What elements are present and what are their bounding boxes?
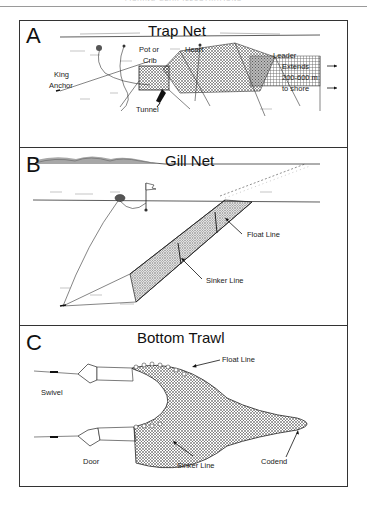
label-leader: Leader — [273, 51, 296, 60]
panel-trap-net: A Trap Net King Anchor Pot or Crib Heart… — [20, 21, 347, 148]
label-float-line: Float Line — [247, 230, 280, 239]
gill-net-illustration — [20, 148, 347, 326]
label-swivel: Swivel — [41, 388, 63, 397]
label-door: Door — [83, 457, 99, 466]
panel-letter-c: C — [26, 330, 42, 356]
page-header: FISHING GEAR ILLUSTRATIONS — [0, 0, 367, 7]
label-crib: Crib — [143, 56, 157, 65]
label-tunnel: Tunnel — [136, 105, 159, 114]
label-sinker-line: Sinker Line — [206, 276, 244, 285]
label-heart: Heart — [185, 45, 203, 54]
label-to-shore: to shore — [282, 84, 309, 93]
figure-frame: A Trap Net King Anchor Pot or Crib Heart… — [19, 20, 348, 487]
label-anchor: Anchor — [49, 81, 73, 90]
label-float-line: Float Line — [222, 355, 255, 364]
label-sinker-line: Sinker Line — [177, 461, 215, 470]
label-pot-or: Pot or — [139, 45, 159, 54]
panel-title-trap-net: Trap Net — [148, 22, 206, 39]
panel-title-gill-net: Gill Net — [165, 152, 214, 169]
header-text: FISHING GEAR ILLUSTRATIONS — [0, 0, 367, 2]
panel-title-bottom-trawl: Bottom Trawl — [137, 329, 225, 346]
panel-letter-b: B — [26, 152, 41, 178]
label-extends: Extends — [282, 62, 309, 71]
panel-bottom-trawl: C Bottom Trawl Swivel Float Line Door Si… — [20, 326, 347, 486]
label-king: King — [54, 70, 69, 79]
label-codend: Codend — [261, 457, 287, 466]
panel-gill-net: B Gill Net Float Line Sinker Line — [20, 148, 347, 326]
label-distance: 200-600 m — [282, 73, 318, 82]
panel-letter-a: A — [26, 23, 41, 49]
